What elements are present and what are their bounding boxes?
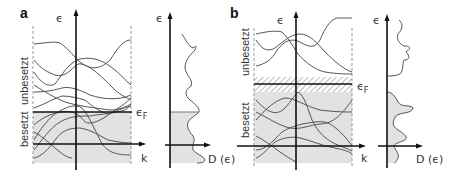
k-axis-label: k xyxy=(141,152,148,165)
unoccupied-label: unbesetzt xyxy=(239,28,251,76)
occupied-region xyxy=(33,112,131,163)
dos-panel-a: ϵ D (ϵ) xyxy=(156,12,235,168)
dos-energy-label: ϵ xyxy=(373,14,380,27)
occupied-label: besetzt xyxy=(239,103,251,138)
energy-axis-arrow-icon xyxy=(294,11,299,18)
band-curves-unoccupied xyxy=(256,18,352,74)
unoccupied-label: unbesetzt xyxy=(18,57,30,105)
energy-axis-label: ϵ xyxy=(277,14,284,27)
panel-letter-a: a xyxy=(20,5,28,21)
panel-b: b ϵ k ϵF unbesetzt besetzt xyxy=(230,5,443,170)
panel-letter-b: b xyxy=(230,5,239,21)
dos-axis-arrow-icon xyxy=(204,143,211,148)
dos-energy-arrow-icon xyxy=(168,12,173,19)
energy-axis-label: ϵ xyxy=(56,12,63,25)
dos-unoccupied-curve xyxy=(387,20,410,76)
panel-a: a ϵ k ϵF unbesetzt bese xyxy=(18,5,235,170)
dos-axis-label: D (ϵ) xyxy=(208,153,235,166)
occupied-label: besetzt xyxy=(18,112,30,147)
energy-axis-arrow-icon xyxy=(74,9,79,16)
fermi-level-label: ϵF xyxy=(136,106,148,121)
dos-axis-arrow-icon xyxy=(416,144,423,149)
dos-energy-label: ϵ xyxy=(156,12,163,25)
dos-panel-b: ϵ D (ϵ) xyxy=(373,14,443,168)
dos-axis-label: D (ϵ) xyxy=(416,153,443,166)
dos-occupied-fill xyxy=(387,92,413,163)
k-axis-arrow-icon xyxy=(359,144,366,149)
k-axis-label: k xyxy=(361,152,368,165)
k-axis-arrow-icon xyxy=(139,142,146,147)
fermi-level-label: ϵF xyxy=(357,80,369,95)
band-structure-figure: a ϵ k ϵF unbesetzt bese xyxy=(0,0,458,175)
dos-energy-arrow-icon xyxy=(385,14,390,21)
